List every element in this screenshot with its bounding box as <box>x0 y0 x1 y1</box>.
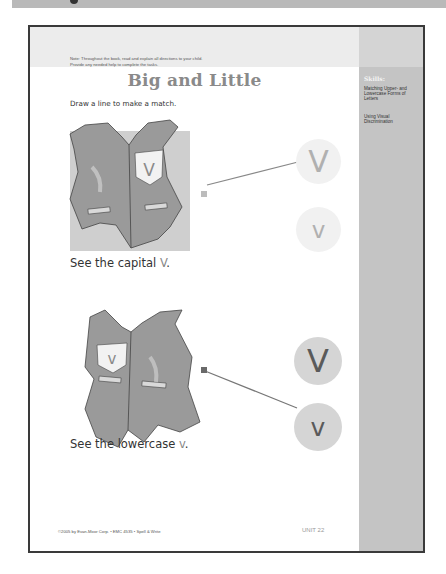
vest-illustrations: V v <box>30 27 423 551</box>
choice-letter: V <box>308 144 329 179</box>
unit-label: UNIT 22 <box>302 527 324 533</box>
choice-circle-lowercase-1[interactable]: v <box>296 207 341 252</box>
choice-letter: V <box>307 342 329 380</box>
start-dot-1[interactable] <box>201 191 207 197</box>
match-line-1 <box>207 162 298 185</box>
top-bar <box>12 0 446 8</box>
match-line-2 <box>205 371 297 408</box>
choice-circle-uppercase-2[interactable]: V <box>294 337 342 385</box>
caption-capital: See the capital V. <box>70 256 170 270</box>
start-dot-2[interactable] <box>201 367 207 373</box>
choice-circle-uppercase-1[interactable]: V <box>296 139 341 184</box>
copyright: ©2005 by Evan-Moor Corp. • EMC 4535 • Sp… <box>58 529 161 534</box>
svg-text:V: V <box>143 160 155 180</box>
vest-icon-lowercase: v <box>85 310 200 447</box>
svg-text:v: v <box>108 350 117 368</box>
choice-letter: v <box>311 413 326 442</box>
workbook-page: Note: Throughout the book, read and expl… <box>28 25 425 553</box>
choice-circle-lowercase-2[interactable]: v <box>294 403 342 451</box>
choice-letter: v <box>312 217 326 243</box>
vest-icon-capital: V <box>70 120 182 248</box>
top-bar-marker <box>70 0 78 4</box>
caption-lowercase: See the lowercase v. <box>70 437 189 451</box>
